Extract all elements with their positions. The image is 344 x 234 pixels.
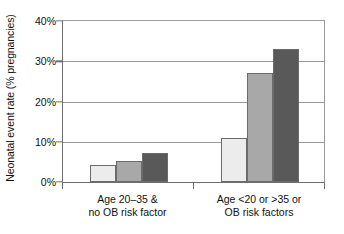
y-tick-mark-10%: [56, 141, 62, 142]
y-tick-label-10%: 10%: [16, 136, 56, 148]
bar-group-1-series-2: [273, 49, 299, 182]
category-label-1: Age <20 or >35 or OB risk factors: [193, 193, 325, 219]
y-tick-mark-30%: [56, 61, 62, 62]
y-axis-title-text: Neonatal event rate (% pregnancies): [4, 14, 16, 182]
bar-group-0-series-0: [90, 165, 116, 182]
category-label-0: Age 20–35 & no OB risk factor: [62, 193, 193, 219]
y-tick-mark-20%: [56, 101, 62, 102]
y-tick-mark-40%: [56, 20, 62, 21]
bar-chart: Neonatal event rate (% pregnancies) 0%10…: [0, 0, 344, 234]
y-tick-label-30%: 30%: [16, 55, 56, 67]
category-start-tick: [62, 183, 63, 189]
category-label-1-line-0: Age <20 or >35 or: [193, 193, 325, 206]
y-tick-label-20%: 20%: [16, 96, 56, 108]
y-tick-label-40%: 40%: [16, 15, 56, 27]
plot-area: [62, 20, 325, 183]
bar-group-0-series-2: [142, 153, 168, 182]
bar-group-1-series-0: [221, 138, 247, 182]
category-separator-tick: [193, 183, 194, 189]
category-label-0-line-0: Age 20–35 &: [62, 193, 193, 206]
category-label-1-line-1: OB risk factors: [193, 206, 325, 219]
category-label-0-line-1: no OB risk factor: [62, 206, 193, 219]
y-tick-label-0%: 0%: [16, 176, 56, 188]
bar-group-0-series-1: [116, 161, 142, 182]
category-end-tick: [324, 183, 325, 189]
bar-group-1-series-1: [247, 73, 273, 182]
